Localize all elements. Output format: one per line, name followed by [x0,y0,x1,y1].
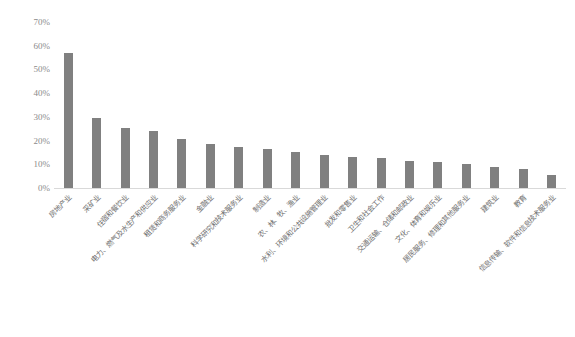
bar[interactable] [234,147,243,189]
bar-slot [168,22,196,188]
bar-slot [424,22,452,188]
bar-slot [310,22,338,188]
bar-slot [54,22,82,188]
bar[interactable] [263,149,272,188]
bar-slot [452,22,480,188]
y-axis-tick-label: 30% [34,112,51,122]
bar[interactable] [405,161,414,188]
bar-slot [82,22,110,188]
bar-slot [338,22,366,188]
plot-area [54,22,566,188]
bar-slot [282,22,310,188]
bar-slot [225,22,253,188]
bar-slot [367,22,395,188]
y-axis-tick-label: 20% [34,136,51,146]
bar-slot [253,22,281,188]
bar[interactable] [149,131,158,188]
bar[interactable] [547,175,556,188]
bar[interactable] [377,158,386,188]
bar[interactable] [291,152,300,188]
bar-slot [395,22,423,188]
bar[interactable] [206,144,215,188]
bar[interactable] [92,118,101,188]
y-axis-tick-label: 0% [38,183,50,193]
y-axis-tick-label: 70% [34,17,51,27]
bar[interactable] [462,164,471,188]
bar-slot [509,22,537,188]
y-axis-tick-label: 60% [34,41,51,51]
y-axis-tick-label: 50% [34,64,51,74]
bar-chart: 70%60%50%40%30%20%10%0% 房地产业采矿业住宿和餐饮业电力、… [0,0,575,337]
bar[interactable] [490,167,499,188]
bar-slot [481,22,509,188]
bar-slot [538,22,566,188]
bar-slot [139,22,167,188]
y-axis-tick-label: 40% [34,88,51,98]
bar-slot [111,22,139,188]
bar[interactable] [519,169,528,188]
x-axis-baseline [54,188,566,189]
bar[interactable] [64,53,73,188]
bar[interactable] [177,139,186,188]
bar[interactable] [121,128,130,188]
bar[interactable] [320,155,329,188]
y-axis-tick-label: 10% [34,159,51,169]
bar[interactable] [433,162,442,188]
bar[interactable] [348,157,357,188]
bar-slot [196,22,224,188]
